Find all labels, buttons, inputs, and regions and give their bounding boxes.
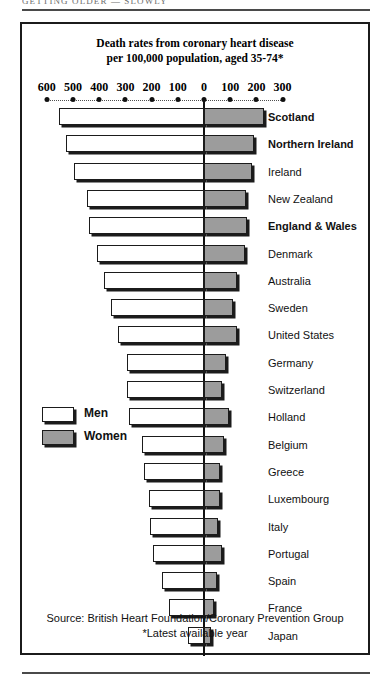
chart-row: Sweden bbox=[22, 299, 368, 316]
chart-row: United States bbox=[22, 326, 368, 343]
bar-men bbox=[127, 354, 204, 371]
country-label: Spain bbox=[268, 575, 296, 587]
legend-swatch-women bbox=[42, 430, 74, 445]
country-label: Holland bbox=[268, 411, 305, 423]
legend-item: Men bbox=[42, 405, 157, 428]
bar-men bbox=[162, 572, 204, 589]
chart-row: England & Wales bbox=[22, 217, 368, 234]
chart-row: Denmark bbox=[22, 245, 368, 262]
country-label: Denmark bbox=[268, 248, 313, 260]
bar-women bbox=[204, 463, 220, 480]
legend-swatch-men bbox=[42, 407, 74, 422]
bar-women bbox=[204, 245, 245, 262]
country-label: Scotland bbox=[268, 111, 314, 123]
chart-row: Greece bbox=[22, 463, 368, 480]
country-label: England & Wales bbox=[268, 220, 357, 232]
source-line2: *Latest available year bbox=[22, 626, 368, 641]
country-label: Ireland bbox=[268, 166, 302, 178]
source-line1: Source: British Heart Foundation/Coronar… bbox=[46, 612, 343, 624]
bar-women bbox=[204, 572, 217, 589]
country-label: United States bbox=[268, 329, 334, 341]
chart-legend: MenWomen bbox=[42, 405, 157, 451]
bar-women bbox=[204, 354, 226, 371]
bar-men bbox=[153, 545, 204, 562]
figure-frame: Death rates from coronary heart disease … bbox=[20, 22, 370, 655]
country-label: Greece bbox=[268, 466, 304, 478]
chart-row: Spain bbox=[22, 572, 368, 589]
bar-men bbox=[89, 217, 204, 234]
bar-women bbox=[204, 408, 229, 425]
chart-row: Germany bbox=[22, 354, 368, 371]
bar-women bbox=[204, 436, 224, 453]
bar-men bbox=[87, 190, 204, 207]
country-label: New Zealand bbox=[268, 193, 333, 205]
bar-women bbox=[204, 326, 237, 343]
country-label: Belgium bbox=[268, 439, 308, 451]
bar-men bbox=[127, 381, 204, 398]
legend-label: Women bbox=[84, 429, 127, 443]
bar-men bbox=[104, 272, 204, 289]
bar-men bbox=[66, 135, 204, 152]
chart-row: Portugal bbox=[22, 545, 368, 562]
bar-men bbox=[118, 326, 204, 343]
country-label: Portugal bbox=[268, 548, 309, 560]
bar-men bbox=[74, 163, 204, 180]
bar-women bbox=[204, 135, 254, 152]
chart-row: Switzerland bbox=[22, 381, 368, 398]
country-label: Australia bbox=[268, 275, 311, 287]
chart-row: Northern Ireland bbox=[22, 135, 368, 152]
chart-row: Scotland bbox=[22, 108, 368, 125]
bar-women bbox=[204, 217, 247, 234]
bar-men bbox=[111, 299, 204, 316]
header-rule bbox=[22, 9, 370, 11]
country-label: Sweden bbox=[268, 302, 308, 314]
chart-row: Luxembourg bbox=[22, 490, 368, 507]
bar-women bbox=[204, 490, 220, 507]
legend-label: Men bbox=[84, 406, 108, 420]
chart-row: New Zealand bbox=[22, 190, 368, 207]
bar-women bbox=[204, 163, 252, 180]
bar-women bbox=[204, 190, 246, 207]
country-label: Germany bbox=[268, 357, 313, 369]
bar-women bbox=[204, 108, 264, 125]
bar-women bbox=[204, 299, 233, 316]
legend-item: Women bbox=[42, 428, 157, 451]
bar-women bbox=[204, 545, 222, 562]
footer-rule bbox=[22, 672, 370, 674]
chart-plot-area: ScotlandNorthern IrelandIrelandNew Zeala… bbox=[22, 24, 368, 653]
bar-men bbox=[59, 108, 204, 125]
country-label: Luxembourg bbox=[268, 493, 329, 505]
running-head: GETTING OLDER — SLOWLY bbox=[22, 0, 368, 8]
chart-row: Australia bbox=[22, 272, 368, 289]
country-label: Northern Ireland bbox=[268, 138, 354, 150]
bar-men bbox=[149, 490, 204, 507]
country-label: Switzerland bbox=[268, 384, 325, 396]
bar-men bbox=[150, 518, 204, 535]
bar-men bbox=[144, 463, 204, 480]
chart-row: Ireland bbox=[22, 163, 368, 180]
country-label: Italy bbox=[268, 521, 288, 533]
bar-women bbox=[204, 381, 222, 398]
figure-source: Source: British Heart Foundation/Coronar… bbox=[22, 611, 368, 641]
chart-row: Italy bbox=[22, 518, 368, 535]
bar-women bbox=[204, 518, 218, 535]
bar-women bbox=[204, 272, 237, 289]
bar-men bbox=[97, 245, 204, 262]
